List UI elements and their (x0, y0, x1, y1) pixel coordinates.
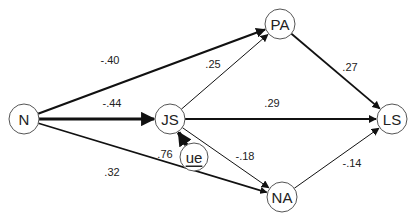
edge-pa-to-ls (291, 34, 379, 109)
edge-labels-group: -.40-.44.32.25.29-.18.27-.14.76 (101, 54, 362, 178)
edge-label-js-na: -.18 (236, 150, 255, 162)
edge-label-js-ls: .29 (264, 97, 279, 109)
node-label: JS (161, 111, 179, 128)
edge-na-to-ls (294, 128, 379, 188)
node-label: LS (383, 111, 401, 128)
edge-label-n-pa: -.40 (101, 54, 120, 66)
edge-label-n-js: -.44 (103, 97, 122, 109)
nodes-group: NJSPALSNAue (9, 9, 407, 212)
node-na: NA (267, 182, 297, 212)
node-label: N (19, 111, 30, 128)
edge-n-to-pa (38, 30, 265, 114)
path-diagram: -.40-.44.32.25.29-.18.27-.14.76 NJSPALSN… (0, 0, 414, 220)
node-n: N (9, 104, 39, 134)
edge-label-pa-ls: .27 (342, 61, 357, 73)
node-js: JS (155, 104, 185, 134)
node-label: ue (186, 149, 203, 166)
edge-label-js-pa: .25 (205, 58, 220, 70)
edge-label-na-ls: -.14 (343, 157, 362, 169)
node-label: PA (271, 16, 290, 33)
edge-ue-to-js (179, 133, 187, 146)
edge-label-ue-js: .76 (157, 148, 172, 160)
node-ue: ue (180, 143, 208, 171)
edge-n-to-na (38, 123, 266, 192)
edge-label-n-na: .32 (104, 166, 119, 178)
node-pa: PA (265, 9, 295, 39)
node-ls: LS (377, 104, 407, 134)
node-label: NA (272, 189, 293, 206)
edges-group (38, 30, 380, 193)
